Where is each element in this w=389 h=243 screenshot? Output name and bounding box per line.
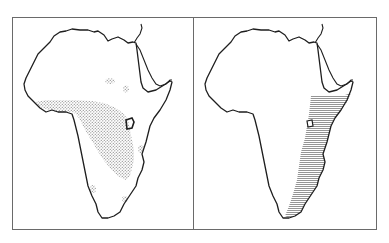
map-panel-right: [205, 24, 353, 218]
hatched-distribution-area: [285, 93, 351, 218]
stippled-patch: [123, 86, 129, 93]
figure: [0, 0, 389, 243]
stippled-patch: [105, 78, 115, 84]
map-panel-left: [24, 24, 172, 218]
lake-victoria: [307, 120, 313, 127]
